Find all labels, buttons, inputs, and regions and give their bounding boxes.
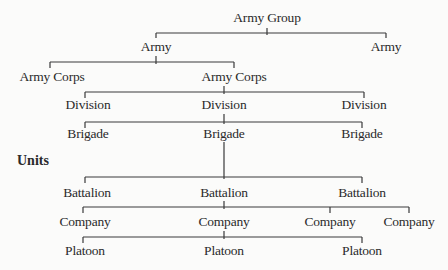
node-army-group: Army Group bbox=[233, 10, 300, 26]
node-company: Company bbox=[383, 214, 434, 230]
node-company: Company bbox=[304, 214, 355, 230]
node-brigade: Brigade bbox=[341, 126, 382, 142]
node-platoon: Platoon bbox=[342, 243, 382, 259]
node-platoon: Platoon bbox=[204, 243, 244, 259]
node-platoon: Platoon bbox=[65, 243, 105, 259]
node-division: Division bbox=[202, 97, 247, 113]
node-army-corps: Army Corps bbox=[201, 69, 266, 85]
node-army-corps: Army Corps bbox=[19, 69, 84, 85]
node-battalion: Battalion bbox=[63, 185, 111, 201]
node-brigade: Brigade bbox=[67, 126, 108, 142]
node-battalion: Battalion bbox=[338, 185, 386, 201]
node-company: Company bbox=[59, 214, 110, 230]
node-company: Company bbox=[198, 214, 249, 230]
org-chart: Units Army GroupArmyArmyArmy CorpsArmy C… bbox=[0, 0, 448, 270]
node-battalion: Battalion bbox=[200, 185, 248, 201]
units-section-label: Units bbox=[17, 153, 49, 169]
node-army: Army bbox=[371, 39, 402, 55]
node-division: Division bbox=[342, 97, 387, 113]
node-brigade: Brigade bbox=[203, 126, 244, 142]
node-army: Army bbox=[141, 39, 172, 55]
node-division: Division bbox=[66, 97, 111, 113]
